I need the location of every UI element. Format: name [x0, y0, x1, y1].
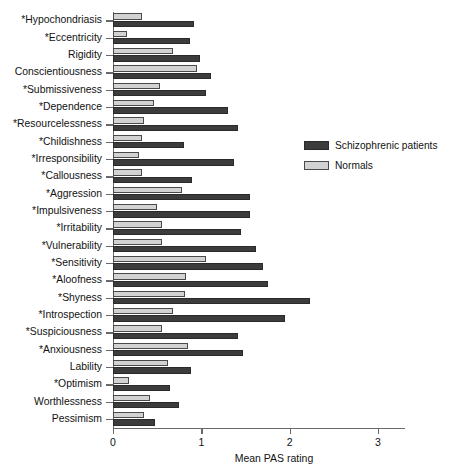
category-label: *Callousness: [41, 169, 102, 183]
bar-schizophrenic-patients: [113, 229, 241, 235]
y-axis-tick: [106, 228, 113, 229]
y-axis-tick: [106, 20, 113, 21]
bar-schizophrenic-patients: [113, 90, 206, 96]
y-axis-tick: [106, 315, 113, 316]
bar-normals: [113, 343, 188, 349]
bar-normals: [113, 117, 144, 123]
bar-normals: [113, 100, 154, 106]
y-axis-tick: [106, 419, 113, 420]
bar-schizophrenic-patients: [113, 367, 191, 373]
chart-row: *Anxiousness: [113, 341, 403, 358]
bar-normals: [113, 360, 168, 366]
bar-schizophrenic-patients: [113, 142, 184, 148]
y-axis-tick: [106, 246, 113, 247]
legend-swatch-schizophrenic-patients: [304, 141, 329, 150]
x-axis-tick-label: 1: [198, 436, 204, 448]
category-label: *Childishness: [39, 135, 102, 149]
chart-row: *Resourcelessness: [113, 116, 403, 133]
x-axis-tick: [113, 428, 114, 434]
bar-schizophrenic-patients: [113, 73, 211, 79]
y-axis-tick: [106, 350, 113, 351]
bar-schizophrenic-patients: [113, 177, 192, 183]
category-label: *Irresponsibility: [32, 152, 102, 166]
legend: Schizophrenic patients Normals: [304, 140, 438, 180]
bar-normals: [113, 273, 186, 279]
bar-normals: [113, 65, 197, 71]
bar-schizophrenic-patients: [113, 125, 238, 131]
y-axis-tick: [106, 298, 113, 299]
x-axis-tick-label: 2: [287, 436, 293, 448]
category-label: *Aloofness: [52, 273, 102, 287]
x-axis-tick: [290, 428, 291, 434]
bar-schizophrenic-patients: [113, 246, 256, 252]
y-axis-tick: [106, 90, 113, 91]
category-label: *Irritability: [56, 221, 102, 235]
bar-schizophrenic-patients: [113, 194, 250, 200]
category-label: Lability: [70, 360, 102, 374]
chart-row: *Sensitivity: [113, 255, 403, 272]
chart-row: *Dependence: [113, 99, 403, 116]
x-axis-tick-label: 0: [110, 436, 116, 448]
bar-normals: [113, 239, 162, 245]
chart-row: *Shyness: [113, 289, 403, 306]
bar-schizophrenic-patients: [113, 159, 234, 165]
category-label: *Suspiciousness: [26, 325, 102, 339]
bar-normals: [113, 377, 129, 383]
chart-row: *Aloofness: [113, 272, 403, 289]
chart-row: Lability: [113, 359, 403, 376]
bar-normals: [113, 152, 139, 158]
category-label: Pessimism: [52, 412, 102, 426]
category-label: Rigidity: [68, 48, 102, 62]
x-axis-title-text: Mean PAS rating: [235, 452, 314, 464]
category-label: *Impulsiveness: [32, 204, 102, 218]
y-axis-tick: [106, 124, 113, 125]
bar-schizophrenic-patients: [113, 21, 194, 27]
x-axis-line: [113, 428, 405, 429]
chart-row: *Introspection: [113, 307, 403, 324]
bar-schizophrenic-patients: [113, 333, 238, 339]
chart-row: *Optimism: [113, 376, 403, 393]
bar-schizophrenic-patients: [113, 263, 263, 269]
bar-normals: [113, 291, 185, 297]
bar-schizophrenic-patients: [113, 211, 250, 217]
chart-row: *Impulsiveness: [113, 203, 403, 220]
bar-normals: [113, 13, 142, 19]
category-label: *Anxiousness: [39, 343, 102, 357]
chart-row: *Suspiciousness: [113, 324, 403, 341]
y-axis-tick: [106, 72, 113, 73]
y-axis-tick: [106, 194, 113, 195]
legend-label-schizophrenic-patients: Schizophrenic patients: [335, 140, 438, 151]
category-label: *Submissiveness: [23, 83, 102, 97]
bar-schizophrenic-patients: [113, 315, 285, 321]
y-axis-tick: [106, 384, 113, 385]
y-axis-tick: [106, 107, 113, 108]
y-axis-tick: [106, 367, 113, 368]
bar-normals: [113, 256, 206, 262]
category-label: *Optimism: [54, 377, 102, 391]
bar-schizophrenic-patients: [113, 402, 179, 408]
category-label: Conscientiousness: [15, 65, 102, 79]
bar-normals: [113, 169, 142, 175]
bar-schizophrenic-patients: [113, 385, 170, 391]
y-axis-tick: [106, 55, 113, 56]
y-axis-tick: [106, 159, 113, 160]
x-axis-title: Mean PAS rating: [0, 452, 452, 464]
bar-normals: [113, 308, 173, 314]
chart-row: Worthlessness: [113, 393, 403, 410]
chart-row: Rigidity: [113, 47, 403, 64]
y-axis-tick: [106, 332, 113, 333]
legend-swatch-normals: [304, 161, 329, 170]
chart-row: *Hypochondriasis: [113, 12, 403, 29]
y-axis-tick: [106, 38, 113, 39]
category-label: *Dependence: [39, 100, 102, 114]
bar-normals: [113, 412, 144, 418]
y-axis-tick: [106, 142, 113, 143]
category-label: *Hypochondriasis: [21, 13, 102, 27]
category-label: *Sensitivity: [51, 256, 102, 270]
bar-normals: [113, 48, 173, 54]
y-axis-tick: [106, 211, 113, 212]
chart-row: *Irritability: [113, 220, 403, 237]
x-axis-tick: [378, 428, 379, 434]
y-axis-tick: [106, 263, 113, 264]
bar-normals: [113, 325, 162, 331]
